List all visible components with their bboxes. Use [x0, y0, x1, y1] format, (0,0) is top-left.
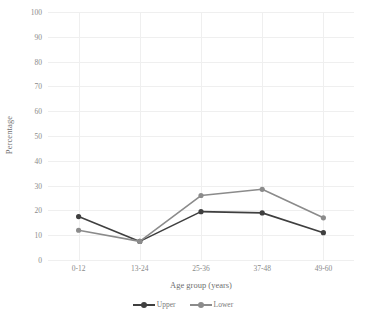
legend-marker-icon — [133, 301, 155, 309]
y-axis-tick: 70 — [35, 82, 43, 91]
y-axis-tick: 10 — [35, 231, 43, 240]
y-axis-tick: 60 — [35, 107, 43, 116]
y-axis-tick: 90 — [35, 32, 43, 41]
y-axis-tick: 80 — [35, 57, 43, 66]
y-axis-tick: 50 — [35, 132, 43, 141]
data-point-lower — [137, 239, 142, 244]
y-axis-tick: 0 — [38, 256, 42, 265]
y-axis-title-label: Percentage — [4, 116, 14, 154]
data-point-lower — [76, 228, 81, 233]
data-point-lower — [198, 193, 203, 198]
data-point-lower — [260, 187, 265, 192]
series-layer — [48, 12, 354, 260]
gridline-horizontal — [48, 260, 354, 261]
line-chart: Percentage 0102030405060708090100 0-1213… — [0, 0, 366, 326]
x-axis-title: Age group (years) — [48, 280, 354, 290]
data-point-upper — [260, 210, 265, 215]
chart-legend: UpperLower — [0, 300, 366, 309]
data-point-lower — [321, 215, 326, 220]
y-axis-tick: 20 — [35, 206, 43, 215]
y-axis-tick-labels: 0102030405060708090100 — [16, 0, 46, 270]
x-axis-tick-labels: 0-1213-2425-3637-4849-60 — [48, 264, 354, 278]
x-axis-tick: 37-48 — [253, 264, 271, 273]
legend-label: Lower — [214, 300, 234, 309]
y-axis-tick: 40 — [35, 156, 43, 165]
plot-area — [48, 12, 354, 260]
y-axis-tick: 100 — [31, 8, 42, 17]
y-axis-tick: 30 — [35, 181, 43, 190]
legend-item-lower[interactable]: Lower — [190, 300, 234, 309]
x-axis-tick: 25-36 — [192, 264, 210, 273]
legend-item-upper[interactable]: Upper — [133, 300, 176, 309]
x-axis-tick: 13-24 — [131, 264, 149, 273]
x-axis-tick: 49-60 — [315, 264, 333, 273]
x-axis-tick: 0-12 — [72, 264, 86, 273]
legend-label: Upper — [157, 300, 176, 309]
y-axis-title: Percentage — [2, 0, 16, 270]
data-point-upper — [321, 230, 326, 235]
legend-marker-icon — [190, 301, 212, 309]
data-point-upper — [198, 209, 203, 214]
data-point-upper — [76, 214, 81, 219]
